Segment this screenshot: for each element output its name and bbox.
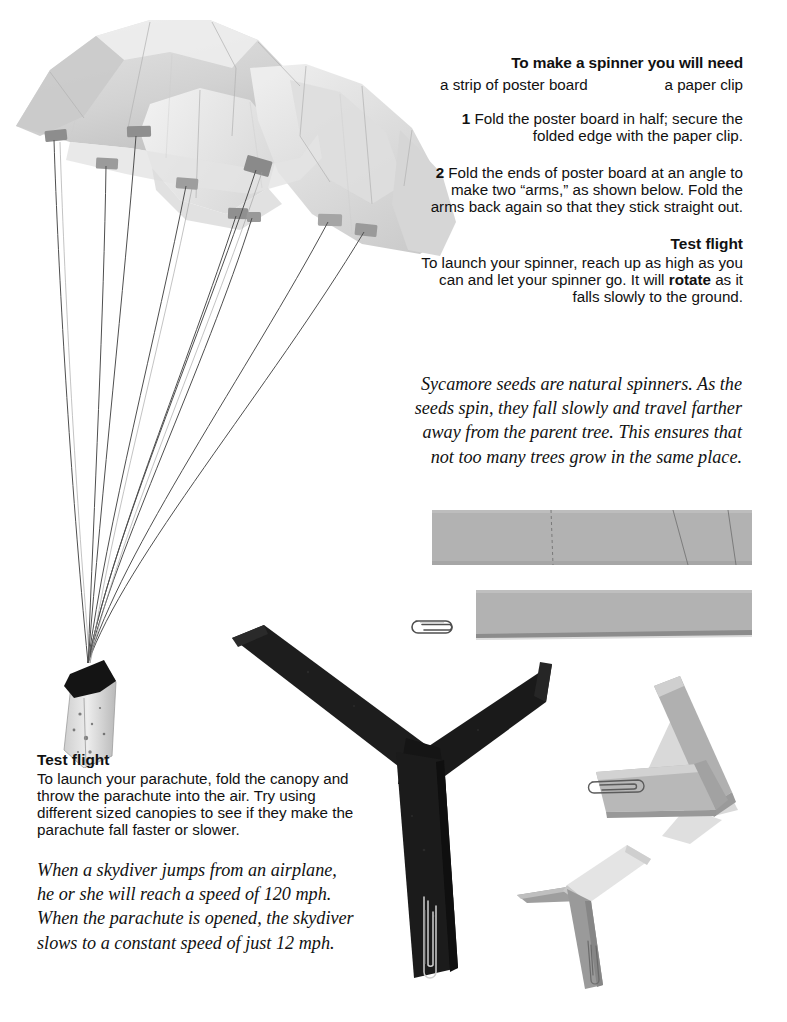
material-item-poster-board: a strip of poster board (440, 76, 588, 93)
spinner-instructions-column: To make a spinner you will need a strip … (418, 54, 743, 305)
gray-finished-spinner-photo (505, 845, 705, 1005)
step-1: 1 Fold the poster board in half; secure … (418, 110, 743, 144)
step-2: 2 Fold the ends of poster board at an an… (418, 164, 743, 215)
parachute-test-flight-heading: Test flight (37, 751, 357, 769)
step-2-number: 2 (436, 164, 444, 181)
parachute-instructions-column: Test flight To launch your parachute, fo… (37, 751, 357, 955)
parachute-test-flight-body: To launch your parachute, fold the canop… (37, 770, 357, 838)
step-2-text: Fold the ends of poster board at an angl… (431, 164, 743, 215)
spinner-test-flight-heading: Test flight (418, 235, 743, 253)
spinner-heading: To make a spinner you will need (418, 54, 743, 72)
page-canvas: To make a spinner you will need a strip … (0, 0, 787, 1022)
step-1-text: Fold the poster board in half; secure th… (475, 110, 743, 144)
spinner-test-flight-body: To launch your spinner, reach up as high… (418, 254, 743, 305)
sycamore-note: Sycamore seeds are natural spinners. As … (408, 372, 742, 469)
gray-folded-spinner-photo (566, 660, 786, 845)
skydiver-note: When a skydiver jumps from an airplane, … (37, 858, 357, 955)
poster-board-strip-photo (430, 506, 755, 572)
materials-list: a strip of poster board a paper clip (418, 76, 743, 93)
step-1-number: 1 (462, 110, 470, 127)
material-item-paper-clip: a paper clip (664, 76, 743, 93)
test-flight-bold-word: rotate (669, 271, 711, 288)
